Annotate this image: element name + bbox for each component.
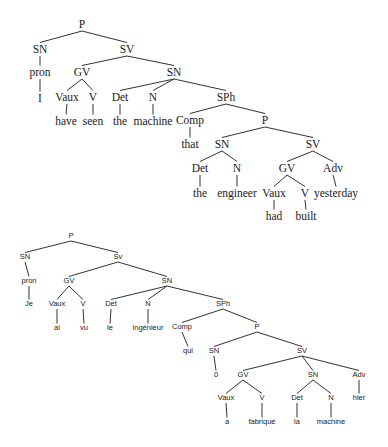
tree-node-det1: Det [112, 91, 129, 103]
tree-node-vaux1: Vaux [49, 299, 66, 308]
tree-node-v1: V [89, 91, 98, 103]
tree-edge [214, 332, 257, 347]
tree-node-v2: V [301, 187, 310, 199]
tree-edge [40, 31, 82, 43]
tree-edge [226, 104, 265, 114]
tree-node-vu: vu [80, 323, 88, 332]
tree-node-sv2: SV [306, 138, 321, 150]
tree-node-sn1: SN [20, 252, 30, 261]
tree-node-det1: Det [105, 299, 118, 308]
tree-node-v1: V [80, 299, 85, 308]
tree-node-p: P [79, 18, 85, 30]
tree-node-sv2: SV [297, 346, 307, 355]
tree-edge [69, 262, 118, 277]
tree-node-sv1: Sv [114, 252, 123, 261]
tree-node-machine: machine [317, 417, 345, 426]
tree-edge [287, 175, 305, 187]
tree-edge [110, 309, 111, 324]
tree-edge [305, 200, 306, 210]
tree-edge [127, 56, 174, 66]
tree-edge [226, 403, 227, 418]
tree-edge [83, 309, 84, 324]
tree-node-n2: N [233, 162, 242, 174]
tree-edge [66, 104, 67, 115]
tree-node-ai: ai [54, 323, 60, 332]
tree-node-p2: P [262, 114, 268, 126]
tree-node-i: I [38, 92, 42, 104]
tree-node-det2: Det [291, 393, 304, 402]
tree-node-sn3: SN [209, 346, 219, 355]
tree-edge [222, 127, 265, 138]
tree-node-p2: P [254, 322, 259, 331]
tree-node-sn3: SN [215, 138, 230, 150]
tree-node-sph: SPh [217, 91, 236, 103]
tree-edge [25, 262, 29, 277]
tree-edge [82, 79, 93, 91]
tree-node-vaux1: Vaux [55, 91, 79, 103]
tree-node-yesterday: yesterday [314, 187, 358, 200]
syntax-tree-diagram: PSNSVpronIGVSNVauxVDetNSPhhaveseenthemac… [0, 0, 388, 447]
tree-edge [313, 151, 333, 162]
tree-edge [200, 151, 222, 162]
tree-edge [297, 380, 313, 394]
tree-node-vaux2: Vaux [262, 187, 286, 199]
tree-node-adv: Adv [353, 370, 366, 379]
tree-node-fabrique: fabriqué [248, 417, 275, 426]
tree-edge [120, 79, 174, 91]
tree-node-gv1: GV [74, 66, 91, 78]
tree-node-built: built [295, 210, 317, 222]
tree-node-sph: SPh [216, 299, 230, 308]
tree-edge [287, 151, 313, 162]
tree-edge [111, 286, 167, 300]
tree-node-v2: V [259, 393, 264, 402]
tree-edge [167, 286, 223, 300]
tree-node-zero: 0 [214, 370, 218, 379]
tree-edge [25, 241, 71, 253]
tree-edge [82, 31, 127, 43]
tree-node-comp: Comp [172, 322, 192, 331]
tree-edge [222, 151, 237, 162]
tree-edge [174, 79, 226, 91]
tree-edge [118, 262, 167, 277]
tree-node-sn4: SN [308, 370, 318, 379]
tree-edge [214, 356, 216, 371]
tree-node-machine: machine [134, 115, 173, 127]
tree-edge [69, 286, 83, 300]
tree-node-comp: Comp [176, 114, 204, 127]
tree-node-le: le [107, 323, 113, 332]
tree-edge [265, 127, 313, 138]
tree-node-engineer: engineer [217, 187, 257, 200]
tree-edge [182, 309, 223, 323]
tree-edge [226, 380, 243, 394]
tree-edge [190, 104, 226, 114]
tree-edge [57, 286, 69, 300]
tree-edge [182, 332, 188, 347]
tree-node-p: P [68, 231, 73, 240]
tree-node-n2: N [328, 393, 333, 402]
tree-node-seen: seen [83, 115, 104, 127]
tree-node-je: Je [25, 299, 33, 308]
tree-node-gv1: GV [64, 276, 75, 285]
french-syntax-tree: PSNSvpronGVSNJeVauxVDetNSPhaivuleingénie… [20, 231, 366, 426]
tree-edge [257, 332, 302, 347]
tree-node-sv1: SV [120, 43, 135, 55]
tree-node-sn2: SN [162, 276, 172, 285]
tree-edge [243, 356, 302, 371]
tree-node-qui: qui [183, 346, 193, 355]
tree-node-a: a [225, 417, 230, 426]
tree-node-had: had [266, 210, 283, 222]
tree-node-the2: the [193, 187, 207, 199]
tree-node-la: la [294, 417, 301, 426]
tree-node-n1: N [145, 299, 150, 308]
tree-node-det2: Det [192, 162, 209, 174]
tree-node-vaux2: Vaux [218, 393, 235, 402]
tree-node-sn1: SN [33, 43, 48, 55]
tree-node-n1: N [149, 91, 158, 103]
tree-edge [82, 56, 127, 66]
tree-node-hier: hier [353, 393, 366, 402]
tree-edge [274, 175, 287, 187]
tree-edge [313, 380, 331, 394]
tree-edge [71, 241, 118, 253]
tree-node-gv2: GV [238, 370, 249, 379]
tree-node-ingenieur: ingénieur [133, 323, 164, 332]
